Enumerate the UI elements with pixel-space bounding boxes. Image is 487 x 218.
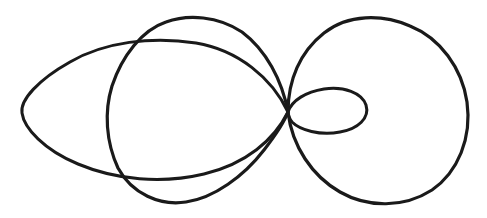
figure-canvas <box>0 0 487 218</box>
line-drawing-svg <box>0 0 487 218</box>
